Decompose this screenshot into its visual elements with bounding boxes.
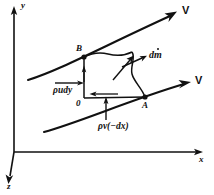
bottom-face-flux-arrow	[104, 97, 109, 121]
bottom-face-mass-flux-label: ρv(−dx)	[98, 122, 129, 132]
y-axis-label: y	[21, 1, 25, 10]
y-axis	[11, 6, 17, 152]
bottom-face-internal-arrow	[90, 92, 119, 97]
point-B-label: B	[76, 44, 82, 53]
upper-streamline	[28, 12, 177, 81]
left-face-internal-arrow	[82, 66, 87, 83]
dm-symbol: m	[154, 50, 162, 60]
upper-streamline-velocity-label: V	[182, 5, 189, 16]
z-axis-label: z	[7, 182, 11, 191]
left-face-mass-flux-label: ρudy	[53, 86, 72, 96]
figure-root: y x z 0 B A V V ρudy ρv(−dx) dm	[0, 0, 214, 195]
point-A-marker	[142, 94, 147, 99]
lower-streamline-velocity-label: V	[195, 75, 202, 86]
control-volume-bottom-face	[84, 97, 145, 98]
origin-label: 0	[76, 99, 81, 108]
coordinate-axes	[6, 6, 203, 184]
x-axis	[14, 149, 203, 155]
mass-flow-normal-tick	[113, 55, 134, 80]
point-B-marker	[81, 54, 86, 59]
x-axis-label: x	[199, 155, 204, 164]
point-markers	[81, 54, 147, 99]
point-A-label: A	[142, 101, 148, 110]
z-axis	[6, 152, 14, 184]
control-volume	[84, 52, 145, 98]
figure-canvas	[0, 0, 214, 195]
differential-mass-flow-label: dm	[149, 50, 162, 60]
